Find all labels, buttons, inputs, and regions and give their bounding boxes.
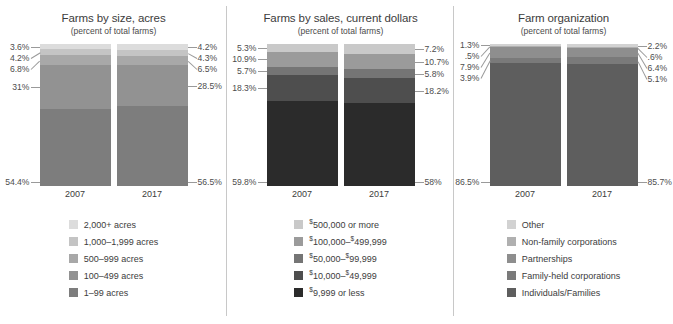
- bar-group: [490, 44, 638, 186]
- bar-segment: [344, 103, 415, 185]
- chart-subtitle: (percent of total farms): [227, 26, 454, 36]
- legend-item[interactable]: Other: [507, 216, 621, 233]
- legend-swatch-icon: [294, 237, 303, 246]
- value-label: 31%: [12, 83, 29, 92]
- value-label: 5.7%: [237, 67, 257, 76]
- leader-line: [258, 48, 267, 49]
- stacked-bar-2007: [40, 44, 111, 186]
- value-label: 54.4%: [5, 178, 29, 187]
- legend-swatch-icon: [294, 288, 303, 297]
- chart-row: Farms by size, acres (percent of total f…: [0, 0, 673, 324]
- bar-segment: [567, 48, 638, 57]
- x-tick-label: 2007: [40, 189, 111, 199]
- x-tick-label: 2007: [267, 189, 338, 199]
- legend-item[interactable]: $9,999 or less: [294, 284, 386, 301]
- legend-swatch-icon: [294, 254, 303, 263]
- legend-swatch-icon: [294, 220, 303, 229]
- chart-legend: OtherNon-family corporationsPartnerships…: [454, 216, 673, 301]
- value-label: 86.5%: [455, 178, 479, 187]
- value-label: 5.8%: [425, 70, 445, 79]
- legend-item-label: $9,999 or less: [309, 288, 364, 298]
- legend-item[interactable]: 1,000–1,999 acres: [69, 233, 159, 250]
- value-label: 4.3%: [198, 54, 218, 63]
- leader-line: [187, 61, 197, 70]
- value-label: 4.2%: [10, 54, 30, 63]
- x-tick-label: 2007: [490, 189, 561, 199]
- value-label: 7.2%: [425, 45, 445, 54]
- chart-title: Farm organization: [454, 12, 673, 24]
- legend-swatch-icon: [507, 220, 516, 229]
- legend-item[interactable]: $10,000–$49,999: [294, 267, 386, 284]
- x-axis-labels: 2007 2017: [40, 189, 188, 199]
- chart-panel-farms-by-sales: Farms by sales, current dollars (percent…: [227, 0, 454, 324]
- legend-item[interactable]: 500–999 acres: [69, 250, 159, 267]
- chart-subtitle: (percent of total farms): [0, 26, 227, 36]
- legend-item[interactable]: 2,000+ acres: [69, 216, 159, 233]
- bar-segment: [567, 57, 638, 64]
- x-axis-labels: 2007 2017: [490, 189, 638, 199]
- value-label: 3.9%: [460, 74, 480, 83]
- leader-line: [188, 47, 197, 48]
- bar-group: [267, 44, 415, 186]
- leader-line: [258, 71, 267, 72]
- legend-list: $500,000 or more$100,000–$499,999$50,000…: [294, 216, 386, 301]
- chart-title: Farms by size, acres: [0, 12, 227, 24]
- leader-line: [258, 182, 267, 183]
- value-label: .5%: [465, 52, 480, 61]
- leader-line: [258, 88, 267, 89]
- legend-item[interactable]: $100,000–$499,999: [294, 233, 386, 250]
- stacked-bar-2017: [567, 44, 638, 186]
- legend-item-label: $50,000–$99,999: [309, 254, 376, 264]
- bar-segment: [267, 44, 338, 52]
- value-label: 85.7%: [648, 178, 672, 187]
- legend-item[interactable]: Individuals/Families: [507, 284, 621, 301]
- legend-swatch-icon: [69, 220, 78, 229]
- legend-item-label: Other: [522, 220, 545, 230]
- stacked-bar-2007: [267, 44, 338, 186]
- legend-item-label: Partnerships: [522, 254, 573, 264]
- legend-item[interactable]: Family-held corporations: [507, 267, 621, 284]
- legend-item[interactable]: 100–499 acres: [69, 267, 159, 284]
- leader-line: [258, 59, 267, 60]
- value-label: 1.3%: [460, 41, 480, 50]
- legend-item[interactable]: Non-family corporations: [507, 233, 621, 250]
- bar-segment: [267, 52, 338, 67]
- legend-item-label: Non-family corporations: [522, 237, 617, 247]
- value-label: 7.9%: [460, 63, 480, 72]
- legend-item-label: Family-held corporations: [522, 271, 621, 281]
- stacked-bar-2017: [344, 44, 415, 186]
- legend-item[interactable]: Partnerships: [507, 250, 621, 267]
- leader-line: [415, 182, 424, 183]
- legend-item-label: 1–99 acres: [84, 288, 129, 298]
- bar-segment: [490, 47, 561, 58]
- leader-line: [31, 182, 40, 183]
- stacked-bar-2017: [117, 44, 188, 186]
- value-label: 59.8%: [232, 178, 256, 187]
- value-label: 5.3%: [237, 44, 257, 53]
- bar-segment: [567, 64, 638, 186]
- value-label: .6%: [648, 53, 663, 62]
- leader-line: [31, 47, 40, 48]
- legend-item-label: 1,000–1,999 acres: [84, 237, 159, 247]
- legend-item[interactable]: 1–99 acres: [69, 284, 159, 301]
- chart-title: Farms by sales, current dollars: [227, 12, 454, 24]
- leader-line: [637, 61, 647, 79]
- leader-line: [415, 49, 424, 50]
- legend-list: OtherNon-family corporationsPartnerships…: [507, 216, 621, 301]
- legend-swatch-icon: [507, 237, 516, 246]
- bar-segment: [267, 75, 338, 101]
- bar-segment: [117, 106, 188, 186]
- legend-swatch-icon: [507, 288, 516, 297]
- legend-swatch-icon: [69, 254, 78, 263]
- legend-item-label: $10,000–$49,999: [309, 271, 376, 281]
- legend-item[interactable]: $500,000 or more: [294, 216, 386, 233]
- value-label: 58%: [425, 178, 442, 187]
- bar-group: [40, 44, 188, 186]
- leader-line: [30, 60, 40, 69]
- legend-item[interactable]: $50,000–$99,999: [294, 250, 386, 267]
- legend-swatch-icon: [69, 237, 78, 246]
- chart-legend: $500,000 or more$100,000–$499,999$50,000…: [227, 216, 454, 301]
- leader-line: [31, 87, 40, 88]
- plot-area: 1.3%.5%7.9%3.9%86.5%2.2%.6%6.4%5.1%85.7%…: [454, 44, 673, 186]
- bar-segment: [344, 44, 415, 54]
